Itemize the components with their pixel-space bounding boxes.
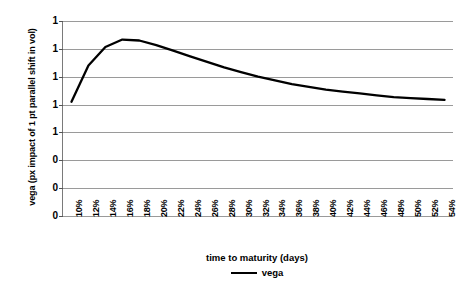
x-axis-tick-label: 36% bbox=[294, 200, 304, 217]
y-axis-tickmark bbox=[59, 49, 63, 50]
y-axis-tickmark bbox=[59, 160, 63, 161]
x-axis-title: time to maturity (days) bbox=[62, 252, 452, 263]
plot-area bbox=[62, 21, 453, 216]
x-axis-tick-labels: 10%12%14%16%18%20%22%24%26%28%30%32%34%3… bbox=[62, 217, 452, 253]
x-axis-tick-label: 18% bbox=[142, 200, 152, 217]
y-axis-tick-label: 1 bbox=[36, 100, 58, 110]
y-axis-tickmark bbox=[59, 188, 63, 189]
y-axis-tick-label: 1 bbox=[36, 127, 58, 137]
x-axis-tick-label: 24% bbox=[193, 200, 203, 217]
x-axis-tick-label: 52% bbox=[430, 200, 440, 217]
y-axis-tick-label: 1 bbox=[36, 44, 58, 54]
y-axis-tick-label: 1 bbox=[36, 72, 58, 82]
y-axis-tick-label: 0 bbox=[36, 155, 58, 165]
y-axis-tick-label: 0 bbox=[36, 183, 58, 193]
chart-legend: vega bbox=[62, 268, 452, 278]
vega-curve bbox=[63, 21, 453, 216]
x-axis-tick-label: 50% bbox=[413, 200, 423, 217]
x-axis-tick-label: 44% bbox=[362, 200, 372, 217]
x-axis-tick-label: 20% bbox=[159, 200, 169, 217]
y-axis-tickmark bbox=[59, 77, 63, 78]
x-axis-tick-label: 26% bbox=[210, 200, 220, 217]
y-axis-tick-labels: 11111000 bbox=[36, 16, 58, 216]
y-axis-tick-label: 0 bbox=[36, 211, 58, 221]
x-axis-tick-label: 46% bbox=[379, 200, 389, 217]
x-axis-tick-label: 30% bbox=[244, 200, 254, 217]
x-axis-tick-label: 48% bbox=[396, 200, 406, 217]
x-axis-tick-label: 10% bbox=[74, 200, 84, 217]
x-axis-tick-label: 12% bbox=[91, 200, 101, 217]
y-axis-tickmark bbox=[59, 132, 63, 133]
x-axis-tick-label: 16% bbox=[125, 200, 135, 217]
x-axis-tick-label: 28% bbox=[227, 200, 237, 217]
x-axis-tick-label: 38% bbox=[311, 200, 321, 217]
y-axis-tick-label: 1 bbox=[36, 16, 58, 26]
legend-label-vega: vega bbox=[262, 268, 284, 278]
y-axis-tickmark bbox=[59, 21, 63, 22]
legend-swatch-vega bbox=[231, 272, 257, 274]
x-axis-tick-label: 40% bbox=[328, 200, 338, 217]
x-axis-tick-label: 22% bbox=[176, 200, 186, 217]
x-axis-tick-label: 54% bbox=[447, 200, 457, 217]
x-axis-tick-label: 42% bbox=[345, 200, 355, 217]
x-axis-tick-label: 14% bbox=[108, 200, 118, 217]
x-axis-tick-label: 32% bbox=[261, 200, 271, 217]
y-axis-tickmark bbox=[59, 105, 63, 106]
x-axis-tick-label: 34% bbox=[277, 200, 287, 217]
vega-line-chart: vega (px impact of 1 pt parallel shift i… bbox=[0, 0, 476, 291]
